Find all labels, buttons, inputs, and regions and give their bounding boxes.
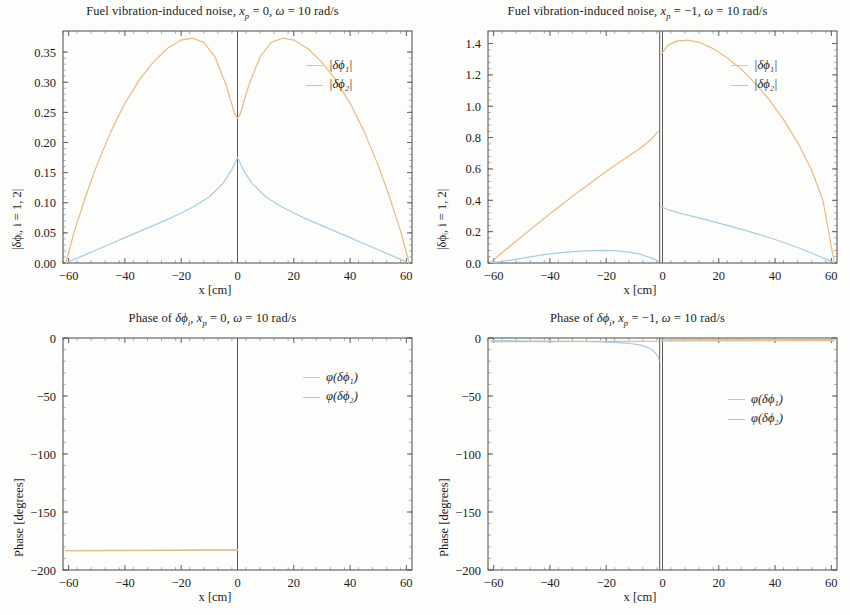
plot-area-bottom-left: −60−40−200204060−200−150−100−500	[0, 307, 425, 587]
svg-text:−200: −200	[455, 564, 481, 578]
svg-text:1.0: 1.0	[465, 100, 481, 114]
y-axis-label: |δϕᵢ, i = 1, 2|	[10, 189, 25, 250]
legend-item: φ(δϕ₂)	[728, 409, 783, 428]
legend-top-left: |δϕ₁| |δϕ₂|	[306, 56, 353, 95]
svg-text:−40: −40	[115, 576, 135, 587]
legend-item: φ(δϕ₂)	[303, 387, 358, 406]
svg-text:0: 0	[659, 269, 665, 280]
y-axis-label: Phase [degrees]	[437, 478, 452, 557]
svg-text:60: 60	[400, 269, 413, 280]
legend-swatch-series1	[306, 65, 323, 66]
svg-text:−100: −100	[30, 448, 56, 462]
legend-swatch-series1	[728, 399, 745, 400]
legend-label-series1: φ(δϕ₁)	[326, 368, 358, 387]
plot-area-top-left: −60−40−2002040600.000.050.100.150.200.25…	[0, 0, 425, 280]
panel-bottom-left: Phase of δϕi, xp = 0, ω = 10 rad/s Phase…	[0, 307, 425, 615]
svg-text:40: 40	[344, 269, 357, 280]
legend-top-right: |δϕ₁| |δϕ₂|	[731, 56, 778, 95]
svg-text:20: 20	[288, 576, 301, 587]
svg-text:−20: −20	[171, 576, 191, 587]
legend-item: |δϕ₁|	[306, 56, 353, 75]
svg-text:40: 40	[344, 576, 357, 587]
svg-text:−40: −40	[115, 269, 135, 280]
panel-title: Phase of δϕi, xp = 0, ω = 10 rad/s	[0, 311, 425, 328]
legend-label-series2: |δϕ₂|	[329, 75, 353, 94]
legend-swatch-series2	[728, 419, 745, 420]
plot-area-top-right: −60−40−2002040600.00.20.40.60.81.01.21.4	[425, 0, 850, 280]
svg-text:−20: −20	[171, 269, 191, 280]
legend-label-series2: |δϕ₂|	[754, 75, 778, 94]
svg-text:−60: −60	[59, 576, 79, 587]
svg-text:60: 60	[400, 576, 413, 587]
x-axis-label: x [cm]	[20, 283, 410, 298]
svg-text:0.8: 0.8	[465, 131, 481, 145]
x-axis-label: x [cm]	[20, 590, 410, 605]
svg-text:0: 0	[50, 332, 56, 346]
legend-swatch-series1	[303, 377, 320, 378]
legend-item: φ(δϕ₁)	[303, 368, 358, 387]
y-axis-label: |δϕᵢ, i = 1, 2|	[435, 189, 450, 250]
svg-text:1.4: 1.4	[465, 37, 481, 51]
svg-text:−60: −60	[484, 576, 504, 587]
x-axis-label: x [cm]	[445, 590, 835, 605]
panel-top-right: Fuel vibration-induced noise, xp = −1, ω…	[425, 0, 850, 308]
svg-text:0.35: 0.35	[34, 46, 56, 60]
panel-top-left: Fuel vibration-induced noise, xp = 0, ω …	[0, 0, 425, 308]
svg-text:0.0: 0.0	[465, 257, 481, 271]
figure-grid: Fuel vibration-induced noise, xp = 0, ω …	[0, 0, 850, 615]
svg-text:−20: −20	[596, 576, 616, 587]
legend-item: |δϕ₂|	[306, 75, 353, 94]
svg-text:20: 20	[713, 269, 726, 280]
svg-text:0.30: 0.30	[34, 76, 56, 90]
legend-label-series1: |δϕ₁|	[329, 56, 353, 75]
svg-text:−60: −60	[484, 269, 504, 280]
svg-text:0.20: 0.20	[34, 136, 56, 150]
legend-item: φ(δϕ₁)	[728, 390, 783, 409]
svg-text:−150: −150	[455, 506, 481, 520]
legend-swatch-series1	[731, 65, 748, 66]
x-axis-label: x [cm]	[445, 283, 835, 298]
legend-swatch-series2	[731, 85, 748, 86]
svg-text:60: 60	[825, 576, 838, 587]
legend-bottom-right: φ(δϕ₁) φ(δϕ₂)	[728, 390, 783, 429]
legend-label-series2: φ(δϕ₂)	[326, 387, 358, 406]
svg-text:60: 60	[825, 269, 838, 280]
svg-text:−50: −50	[36, 390, 56, 404]
legend-label-series1: |δϕ₁|	[754, 56, 778, 75]
svg-text:−200: −200	[30, 564, 56, 578]
svg-text:20: 20	[288, 269, 301, 280]
panel-title: Fuel vibration-induced noise, xp = 0, ω …	[0, 4, 425, 21]
legend-bottom-left: φ(δϕ₁) φ(δϕ₂)	[303, 368, 358, 407]
svg-text:0.15: 0.15	[34, 166, 56, 180]
svg-text:0: 0	[234, 269, 240, 280]
svg-text:40: 40	[769, 576, 782, 587]
svg-text:40: 40	[769, 269, 782, 280]
svg-text:−40: −40	[540, 576, 560, 587]
legend-swatch-series2	[303, 397, 320, 398]
svg-text:−50: −50	[461, 390, 481, 404]
panel-title: Phase of δϕi, xp = −1, ω = 10 rad/s	[425, 311, 850, 328]
svg-text:−100: −100	[455, 448, 481, 462]
svg-text:20: 20	[713, 576, 726, 587]
legend-item: |δϕ₁|	[731, 56, 778, 75]
legend-item: |δϕ₂|	[731, 75, 778, 94]
svg-text:0.10: 0.10	[34, 196, 56, 210]
svg-text:0: 0	[475, 332, 481, 346]
svg-text:−20: −20	[596, 269, 616, 280]
legend-swatch-series2	[306, 85, 323, 86]
svg-text:0.05: 0.05	[34, 226, 56, 240]
svg-text:0: 0	[659, 576, 665, 587]
svg-text:−60: −60	[59, 269, 79, 280]
panel-bottom-right: Phase of δϕi, xp = −1, ω = 10 rad/s Phas…	[425, 307, 850, 615]
y-axis-label: Phase [degrees]	[12, 478, 27, 557]
svg-text:1.2: 1.2	[465, 68, 481, 82]
svg-text:−40: −40	[540, 269, 560, 280]
svg-text:0.25: 0.25	[34, 106, 56, 120]
legend-label-series2: φ(δϕ₂)	[751, 409, 783, 428]
legend-label-series1: φ(δϕ₁)	[751, 390, 783, 409]
svg-text:0: 0	[234, 576, 240, 587]
svg-text:0.4: 0.4	[465, 194, 481, 208]
svg-text:−150: −150	[30, 506, 56, 520]
svg-text:0.00: 0.00	[34, 257, 56, 271]
svg-text:0.2: 0.2	[465, 225, 481, 239]
